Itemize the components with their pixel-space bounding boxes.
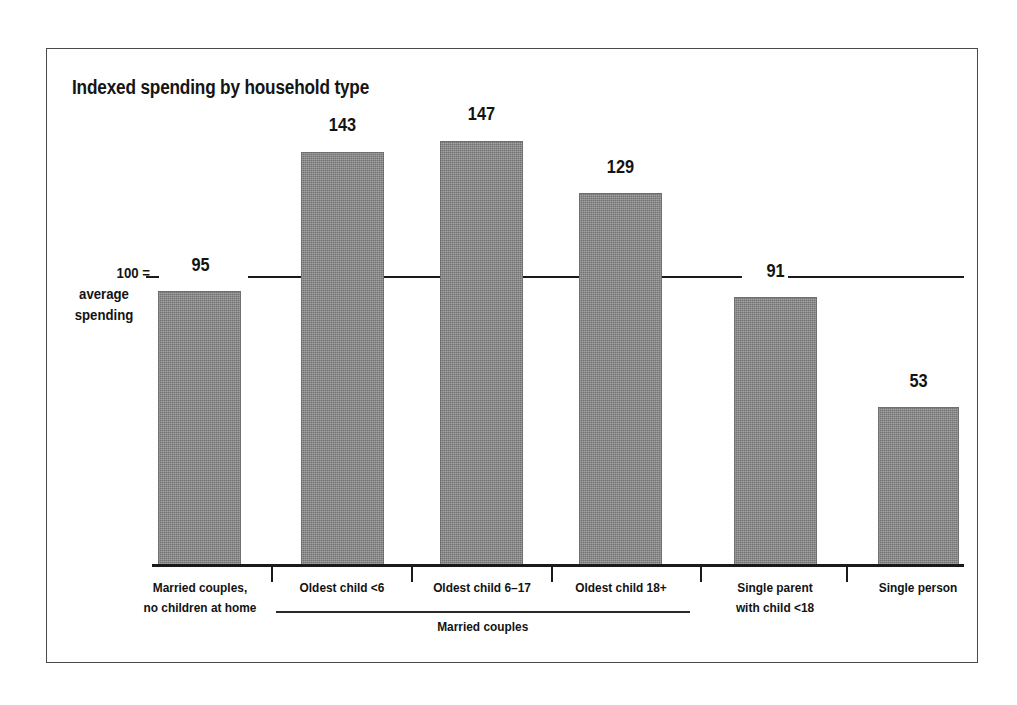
chart-title: Indexed spending by household type xyxy=(72,76,369,99)
chart-frame xyxy=(46,48,978,663)
